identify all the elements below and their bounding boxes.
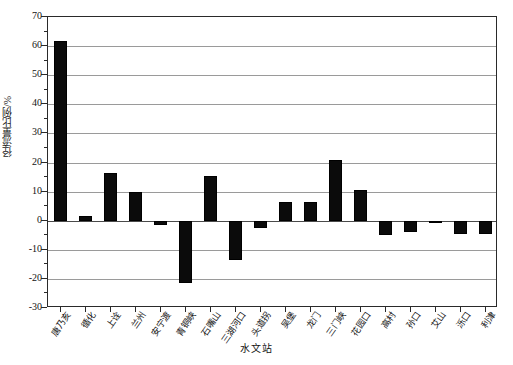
y-tick-label: 60 [12,40,42,50]
x-tick-label: 上诠 [104,310,123,330]
bar [454,221,467,234]
bars-series [48,17,496,306]
x-tick-label: 唐乃亥 [49,310,73,338]
y-tick-label: 70 [12,11,42,21]
x-tick-label: 吴堡 [279,310,298,330]
y-tick-label: 30 [12,127,42,137]
y-tick-label: 10 [12,186,42,196]
bar [54,41,67,221]
x-axis-title: 水文站 [0,340,513,355]
x-tick-label: 三门峡 [324,310,348,338]
x-tick-label: 高村 [379,310,398,330]
bar [104,173,117,221]
bar [379,221,392,236]
bar [79,216,92,220]
x-tick-label: 循化 [79,310,98,330]
bar [129,192,142,221]
x-tick-label: 头道拐 [249,310,273,338]
y-tick-mark [41,307,47,308]
x-tick-label: 青铜峡 [174,310,198,338]
x-tick-label: 艾山 [429,310,448,330]
x-tick-label: 利津 [479,310,498,330]
y-tick-label: 20 [12,157,42,167]
bar [279,202,292,221]
y-tick-label: 40 [12,98,42,108]
bar-chart: 径流量比例/% 706050403020100-10-20-30 唐乃亥循化上诠… [0,0,513,365]
x-tick-label: 安宁渡 [149,310,173,338]
bar [329,160,342,221]
plot-area [47,16,497,307]
x-tick-label: 石嘴山 [199,310,223,338]
bar [179,221,192,284]
x-tick-label: 兰州 [129,310,148,330]
x-tick-label: 花园口 [349,310,373,338]
x-tick-label: 泺口 [454,310,473,330]
y-tick-label: -20 [12,273,42,283]
bar [404,221,417,233]
bar [204,176,217,221]
bar [429,221,442,223]
y-tick-label: 0 [12,215,42,225]
y-tick-label: 50 [12,69,42,79]
bar [354,190,367,221]
bar [154,221,167,225]
bar [479,221,492,234]
bar [254,221,267,228]
x-tick-label: 孙口 [404,310,423,330]
y-tick-label: -10 [12,244,42,254]
bar [229,221,242,260]
x-tick-label: 龙门 [304,310,323,330]
bar [304,202,317,221]
